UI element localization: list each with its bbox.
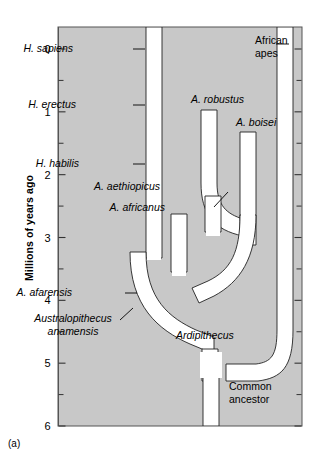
taxon-label-a-anamensis: anamensis <box>48 325 100 337</box>
taxon-label-african-apes: apes <box>255 47 278 59</box>
seam-cover-apes <box>227 365 235 379</box>
taxon-label-common-ancestor: ancestor <box>229 393 270 405</box>
taxon-label-african-apes: African <box>255 34 288 46</box>
taxon-label-a-aethiopicus: A. aethiopicus <box>93 180 161 192</box>
taxon-label-common-ancestor: Common <box>229 380 272 392</box>
taxon-label-h-sapiens: H. sapiens <box>23 42 73 54</box>
seam-cover-africanus <box>172 262 186 276</box>
tick-label-5: 5 <box>44 357 50 369</box>
y-axis-title: Millions of years ago <box>23 143 35 313</box>
seam-cover-ardi <box>203 360 217 376</box>
taxon-label-a-africanus: A. africanus <box>109 201 166 213</box>
tick-label-3: 3 <box>44 232 50 244</box>
phylogenetic-tree-figure: 0123456 H. sapiensH. erectusH. habilisA.… <box>0 0 331 463</box>
panel-caption: (a) <box>8 438 20 449</box>
branch-homo <box>146 27 162 258</box>
taxon-label-a-anamensis: Australopithecus <box>33 312 112 324</box>
taxon-label-h-erectus: H. erectus <box>28 98 77 110</box>
seam-cover-aethiopicus <box>206 222 220 236</box>
tick-label-6: 6 <box>44 420 50 432</box>
branch-root-stem <box>203 370 219 426</box>
tick-label-2: 2 <box>44 169 50 181</box>
taxon-label-ardipithecus: Ardipithecus <box>175 329 235 341</box>
taxon-label-a-robustus: A. robustus <box>190 93 245 105</box>
hominin-tree-svg: 0123456 H. sapiensH. erectusH. habilisA.… <box>0 0 331 463</box>
seam-cover-homo <box>147 240 161 260</box>
taxon-label-h-habilis: H. habilis <box>36 157 80 169</box>
taxon-label-a-boisei: A. boisei <box>235 116 277 128</box>
seam-cover-boisei <box>241 212 255 228</box>
